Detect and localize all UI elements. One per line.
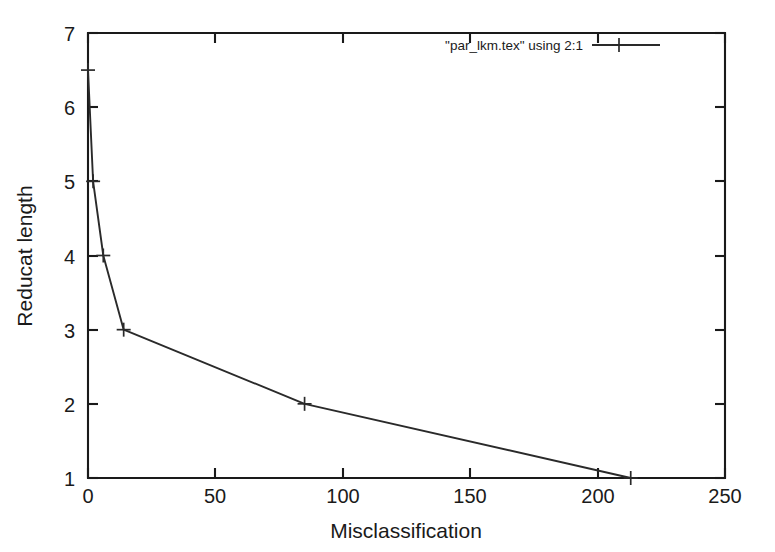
y-axis-title: Reducat length — [13, 185, 36, 326]
x-tick-label-200: 200 — [581, 485, 614, 507]
x-tick-label-150: 150 — [453, 485, 486, 507]
x-axis-ticks — [88, 33, 725, 478]
y-axis-tick-labels: 1 2 3 4 5 6 7 — [64, 23, 75, 490]
data-point-marker — [298, 397, 312, 411]
x-tick-label-250: 250 — [708, 485, 741, 507]
x-axis-tick-labels: 0 50 100 150 200 250 — [82, 485, 741, 507]
chart-container: 0 50 100 150 200 250 1 2 3 4 5 6 7 Miscl… — [0, 0, 775, 552]
legend-plus-icon — [612, 38, 626, 52]
x-tick-label-0: 0 — [82, 485, 93, 507]
series-markers — [81, 63, 638, 485]
data-point-marker — [96, 249, 110, 263]
legend-label-par-lkm: "par_lkm.tex" using 2:1 — [445, 38, 583, 53]
y-tick-label-7: 7 — [64, 23, 75, 45]
y-tick-label-2: 2 — [64, 394, 75, 416]
y-axis-ticks — [88, 33, 725, 478]
plot-frame — [88, 33, 725, 478]
data-series-par-lkm — [81, 63, 638, 485]
y-tick-label-5: 5 — [64, 171, 75, 193]
line-chart: 0 50 100 150 200 250 1 2 3 4 5 6 7 Miscl… — [0, 0, 775, 552]
data-point-marker — [81, 63, 95, 77]
x-tick-label-50: 50 — [204, 485, 226, 507]
y-tick-label-4: 4 — [64, 246, 75, 268]
y-tick-label-3: 3 — [64, 320, 75, 342]
series-line — [88, 70, 631, 478]
data-point-marker — [624, 471, 638, 485]
legend: "par_lkm.tex" using 2:1 — [445, 38, 660, 53]
y-tick-label-6: 6 — [64, 97, 75, 119]
x-axis-title: Misclassification — [330, 519, 482, 542]
y-tick-label-1: 1 — [64, 468, 75, 490]
x-tick-label-100: 100 — [326, 485, 359, 507]
data-point-marker — [117, 323, 131, 337]
